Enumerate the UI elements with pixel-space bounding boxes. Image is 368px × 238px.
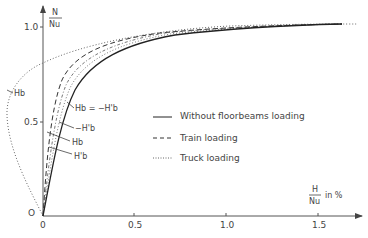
legend-dotted-label: Truck loading <box>179 153 240 163</box>
annotation-truck-hb: Hb <box>14 89 25 98</box>
x-tick-0: 0 <box>40 220 46 230</box>
annotation-hb: Hb <box>72 138 83 147</box>
chart: 1.0 0.5 N Nu 0 0.5 1.0 1.5 O H Nu in % H… <box>0 0 368 238</box>
legend-dashed-label: Train loading <box>179 133 238 143</box>
legend: Without floorbeams loading Train loading… <box>153 111 305 163</box>
x-label-num: H <box>312 185 318 194</box>
x-label-suffix: in % <box>325 191 343 200</box>
x-label-den: Nu <box>309 197 320 206</box>
x-tick-1.0: 1.0 <box>220 220 235 230</box>
y-tick-1.0: 1.0 <box>24 22 39 32</box>
y-label-den: Nu <box>49 20 60 29</box>
legend-solid-label: Without floorbeams loading <box>180 111 305 121</box>
y-label-num: N <box>52 8 58 17</box>
annotation-neg-hb-prime: −H'b <box>75 124 95 133</box>
x-tick-0.5: 0.5 <box>128 220 142 230</box>
annotation-hb-eq: Hb = −H'b <box>75 104 118 113</box>
y-tick-0.5: 0.5 <box>24 117 38 127</box>
annotation-hb-prime: H'b <box>74 152 87 161</box>
origin-label: O <box>28 208 35 218</box>
x-tick-1.5: 1.5 <box>312 220 326 230</box>
